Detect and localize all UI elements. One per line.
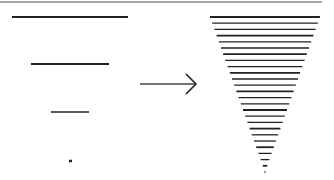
arrow-icon: [140, 74, 196, 94]
stacked-triangle: [210, 17, 320, 172]
input-segments: [12, 17, 128, 161]
diagram-canvas: [0, 0, 334, 180]
